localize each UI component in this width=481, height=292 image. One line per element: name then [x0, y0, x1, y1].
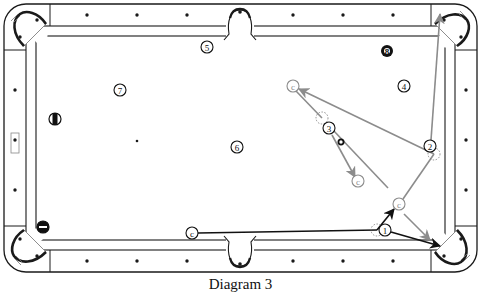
svg-text:8: 8: [385, 47, 390, 57]
spot-dot: [136, 140, 139, 143]
ball-3: 3: [323, 122, 335, 134]
diamond: [135, 13, 138, 16]
ball-4: 4: [398, 80, 410, 92]
ball-7: 7: [114, 84, 126, 96]
diamond: [13, 88, 16, 91]
svg-text:1: 1: [383, 226, 388, 236]
pocket-top-side: [224, 9, 256, 40]
diamond: [13, 188, 16, 191]
ball-5: 5: [201, 41, 213, 53]
ball-8: 8: [381, 45, 393, 57]
ball-stripe: [49, 113, 61, 125]
diamond: [291, 259, 294, 262]
svg-text:7: 7: [118, 86, 123, 96]
svg-text:6: 6: [235, 143, 240, 153]
diamond: [464, 138, 467, 141]
diamond: [391, 259, 394, 262]
rail-marker-box: [11, 133, 19, 153]
ball-1: 1: [379, 224, 391, 236]
svg-text:5: 5: [205, 43, 210, 53]
svg-text:c: c: [291, 82, 295, 92]
diamond: [13, 138, 16, 141]
diamond: [185, 259, 188, 262]
ball-2: 2: [424, 140, 436, 152]
svg-text:c: c: [190, 229, 194, 239]
diamond: [464, 88, 467, 91]
diamond: [341, 259, 344, 262]
diamond: [85, 259, 88, 262]
svg-text:c: c: [397, 200, 401, 210]
pocket-bottom-side: [224, 236, 256, 267]
svg-text:3: 3: [327, 124, 332, 134]
diamond: [464, 188, 467, 191]
cue-start: c: [186, 227, 198, 239]
svg-text:2: 2: [428, 142, 433, 152]
diamond: [291, 13, 294, 16]
svg-text:4: 4: [402, 82, 407, 92]
diamond: [135, 259, 138, 262]
svg-text:c: c: [356, 177, 360, 187]
diamond: [185, 13, 188, 16]
cue-after-3: c: [352, 175, 364, 187]
diamond: [391, 13, 394, 16]
ball-stripe-2: [37, 221, 49, 233]
diagram-caption: Diagram 3: [0, 276, 481, 292]
diamond: [85, 13, 88, 16]
diamond: [341, 13, 344, 16]
playing-surface: [36, 36, 445, 240]
cue-after-1: c: [393, 198, 405, 210]
ball-6: 6: [231, 141, 243, 153]
cue-after-2: c: [287, 80, 299, 92]
